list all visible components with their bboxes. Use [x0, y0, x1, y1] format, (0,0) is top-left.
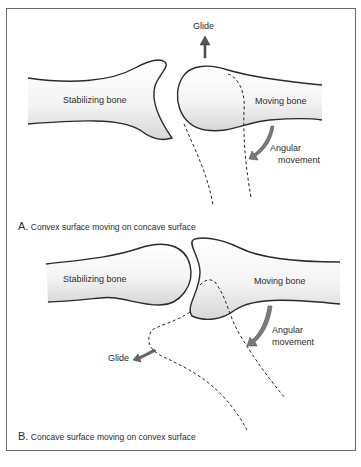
angular-label-b-line2: movement — [272, 337, 314, 348]
angular-label-a-line1: Angular — [270, 143, 301, 154]
glide-label-a: Glide — [193, 21, 214, 32]
caption-b: B. Concave surface moving on convex surf… — [18, 430, 196, 442]
caption-a-text: Convex surface moving on concave surface — [31, 222, 196, 232]
glide-arrow-icon-a — [200, 36, 210, 58]
joint-diagram — [0, 0, 361, 467]
caption-b-text: Concave surface moving on convex surface — [31, 432, 196, 442]
angular-arrow-icon-b — [247, 306, 272, 346]
stabilizing-bone-label-b: Stabilizing bone — [63, 274, 127, 285]
dashed-path-a-1 — [184, 124, 213, 205]
caption-a: A. Convex surface moving on concave surf… — [18, 220, 196, 232]
caption-b-letter: B. — [18, 430, 28, 442]
panel-a — [28, 36, 322, 205]
moving-bone-label-b: Moving bone — [254, 276, 306, 287]
stabilizing-bone-label-a: Stabilizing bone — [63, 95, 127, 106]
glide-label-b: Glide — [108, 353, 129, 364]
dashed-path-b-1 — [149, 312, 247, 430]
angular-label-b-line1: Angular — [272, 325, 303, 336]
angular-label-a-line2: movement — [278, 155, 320, 166]
glide-arrow-icon-b — [133, 349, 156, 362]
moving-bone-label-a: Moving bone — [255, 96, 307, 107]
caption-a-letter: A. — [18, 220, 28, 232]
